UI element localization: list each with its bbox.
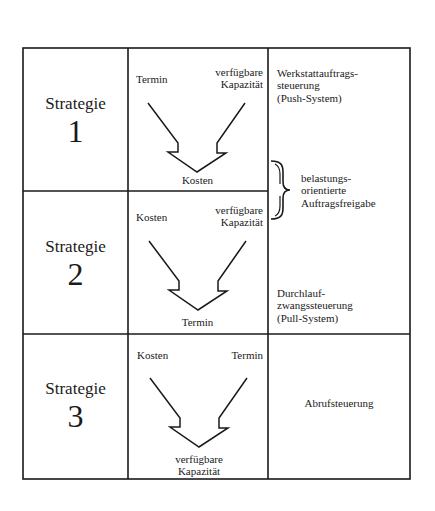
strategy-3-method: Abrufsteuerung [268, 397, 410, 409]
strategy-2-input-right: verfügbare Kapazität [193, 204, 263, 229]
strategy-1-method-line3: (Push-System) [277, 92, 358, 104]
strategy-1-input-right: verfügbare Kapazität [193, 66, 263, 91]
strategy-2-method-line2: zwangssteuerung [277, 299, 353, 311]
curly-brace-inner-icon [275, 164, 280, 216]
strategy-2-method-line1: Durchlauf- [277, 287, 353, 299]
strategy-2-label: Strategie [23, 237, 128, 256]
strategy-1-method-line2: steuerung [277, 79, 358, 91]
strategy-3-label: Strategie [23, 379, 128, 398]
strategy-2-method-line3: (Pull-System) [277, 312, 353, 324]
strategy-2-method: Durchlauf- zwangssteuerung (Pull-System) [277, 287, 353, 324]
strategy-1-method-line1: Werkstattauftrags- [277, 67, 358, 79]
strategy-1-number: 1 [23, 114, 128, 150]
curly-brace-icon [271, 161, 290, 219]
strategy-1-input-left: Termin [136, 73, 168, 85]
strategy-1-input-right-line1: verfügbare [193, 66, 263, 78]
bracket-note: belastungs- orientierte Auftragsfreigabe [301, 172, 376, 209]
merge-arrow-icon-2 [149, 241, 246, 310]
bracket-note-line1: belastungs- [301, 172, 376, 184]
strategy-3-number: 3 [23, 399, 128, 435]
strategy-3-input-left: Kosten [137, 349, 168, 361]
strategy-2-input-right-line2: Kapazität [193, 216, 263, 228]
strategy-3-input-right: Termin [193, 349, 263, 361]
strategy-3-output: verfügbare Kapazität [160, 453, 238, 478]
strategy-1-method: Werkstattauftrags- steuerung (Push-Syste… [277, 67, 358, 104]
merge-arrow-icon-1 [148, 103, 245, 172]
strategy-diagram: Strategie 1 Termin verfügbare Kapazität … [0, 0, 435, 511]
strategy-1-output: Kosten [160, 174, 235, 186]
strategy-2-input-left: Kosten [136, 211, 167, 223]
strategy-2-number: 2 [23, 257, 128, 293]
strategy-3-output-line1: verfügbare [160, 453, 238, 465]
strategy-3-output-line2: Kapazität [160, 465, 238, 477]
bracket-note-line3: Auftragsfreigabe [301, 197, 376, 209]
bracket-note-line2: orientierte [301, 184, 376, 196]
merge-arrow-icon-3 [150, 378, 247, 447]
strategy-1-label: Strategie [23, 94, 128, 113]
strategy-2-output: Termin [160, 316, 235, 328]
strategy-1-input-right-line2: Kapazität [193, 78, 263, 90]
strategy-2-input-right-line1: verfügbare [193, 204, 263, 216]
